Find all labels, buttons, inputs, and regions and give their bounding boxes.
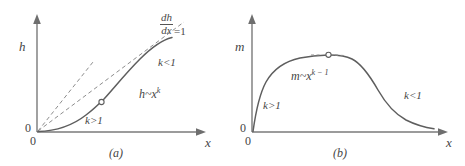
panel-a: h x 0 0 dh dx =1 k<1 h~xk k>1 (a) bbox=[0, 0, 232, 166]
panel-b: m x 0 0 m~xk − 1 k>1 k<1 (b) bbox=[232, 0, 465, 166]
panel-a-right-regime-label: k<1 bbox=[158, 57, 176, 68]
power-law-base: h~x bbox=[139, 87, 157, 101]
maximum-point-marker bbox=[326, 52, 331, 57]
panel-a-y-axis-zero: 0 bbox=[25, 122, 31, 134]
panel-b-right-regime-label: k<1 bbox=[404, 90, 422, 101]
panel-a-y-axis-label: h bbox=[19, 40, 26, 53]
panel-b-plot bbox=[232, 0, 465, 166]
panel-b-x-axis-label: x bbox=[446, 136, 452, 149]
panel-b-y-axis-label: m bbox=[235, 40, 244, 53]
power-law-exponent: k − 1 bbox=[311, 68, 328, 77]
panel-a-slope-annotation: dh dx =1 bbox=[160, 12, 186, 37]
tangent-dashed-line bbox=[38, 22, 184, 131]
curve-h-vs-x bbox=[38, 38, 172, 132]
panel-b-y-axis-zero: 0 bbox=[240, 122, 246, 134]
panel-a-caption: (a) bbox=[109, 147, 123, 159]
power-law-base: m~x bbox=[291, 69, 311, 83]
x-axis bbox=[37, 128, 206, 136]
y-axis bbox=[33, 14, 41, 132]
slope-numerator: dh bbox=[160, 12, 173, 23]
x-axis bbox=[252, 128, 448, 136]
panel-a-origin-zero: 0 bbox=[30, 135, 36, 147]
inflection-point-marker bbox=[99, 99, 104, 104]
panel-a-power-law-annotation: h~xk bbox=[139, 87, 160, 100]
slope-equals: =1 bbox=[174, 25, 186, 37]
panel-a-x-axis-label: x bbox=[205, 136, 211, 149]
panel-b-caption: (b) bbox=[333, 147, 347, 159]
slope-denominator: dx bbox=[160, 25, 172, 36]
panel-b-origin-zero: 0 bbox=[245, 135, 251, 147]
power-law-exponent: k bbox=[157, 86, 161, 95]
panel-a-left-regime-label: k>1 bbox=[85, 115, 103, 126]
panel-b-left-regime-label: k>1 bbox=[263, 100, 281, 111]
y-axis bbox=[248, 14, 256, 132]
two-panel-figure: h x 0 0 dh dx =1 k<1 h~xk k>1 (a) bbox=[0, 0, 465, 166]
panel-b-power-law-annotation: m~xk − 1 bbox=[291, 69, 328, 82]
